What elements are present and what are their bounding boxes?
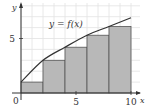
y-axis-label: y (11, 3, 17, 12)
x-tick-label: 10 (125, 97, 137, 107)
rectangle-bar (87, 35, 109, 93)
rectangle-bar (43, 60, 65, 93)
x-tick-label: 5 (73, 97, 79, 107)
rectangle-bar (65, 47, 87, 93)
y-axis-arrow-icon (19, 2, 23, 8)
rectangle-bar (109, 27, 131, 93)
function-label: y = f(x) (48, 19, 83, 29)
x-axis-label: x (140, 96, 145, 105)
rectangle-bar (21, 82, 43, 93)
y-tick-label: 5 (9, 34, 15, 44)
x-axis-arrow-icon (136, 91, 141, 95)
origin-label: 0 (13, 96, 19, 106)
riemann-sum-chart: 5105 y x 0 y = f(x) (0, 0, 147, 110)
